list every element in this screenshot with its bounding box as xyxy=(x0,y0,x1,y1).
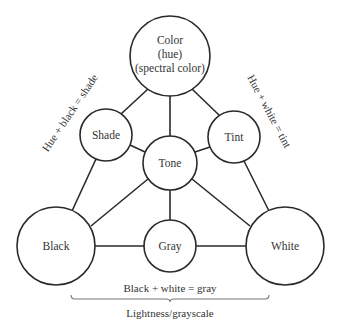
node-gray-label: Gray xyxy=(159,240,182,253)
node-tone-label: Tone xyxy=(159,157,182,169)
edge-tone-white xyxy=(192,179,250,226)
edge-tint-tone xyxy=(195,147,210,152)
node-color-label-3: (spectral color) xyxy=(135,62,205,75)
annotation-lightness: Lightness/grayscale xyxy=(126,307,213,319)
edge-tint-white xyxy=(244,161,269,211)
edge-shade-black xyxy=(72,159,96,211)
node-white-label: White xyxy=(271,240,299,252)
node-color-label-2: (hue) xyxy=(158,48,182,61)
node-black: Black xyxy=(17,207,95,285)
node-tint-label: Tint xyxy=(225,131,245,143)
node-black-label: Black xyxy=(43,240,70,252)
edge-color-shade xyxy=(121,89,148,114)
node-color-label-1: Color xyxy=(157,34,183,46)
node-gray: Gray xyxy=(144,220,196,272)
node-shade: Shade xyxy=(80,109,132,161)
node-tint: Tint xyxy=(208,111,260,163)
node-white: White xyxy=(246,207,324,285)
edge-tone-black xyxy=(91,179,148,226)
edge-shade-tone xyxy=(130,145,145,152)
annotation-black-white: Black + white = gray xyxy=(123,282,217,294)
lightness-brace xyxy=(71,295,269,302)
node-tone: Tone xyxy=(143,136,197,190)
edge-color-tint xyxy=(192,89,219,115)
node-color: Color (hue) (spectral color) xyxy=(130,16,210,96)
color-relationship-diagram: Color (hue) (spectral color) Shade Tint … xyxy=(0,0,340,326)
node-shade-label: Shade xyxy=(92,129,120,141)
